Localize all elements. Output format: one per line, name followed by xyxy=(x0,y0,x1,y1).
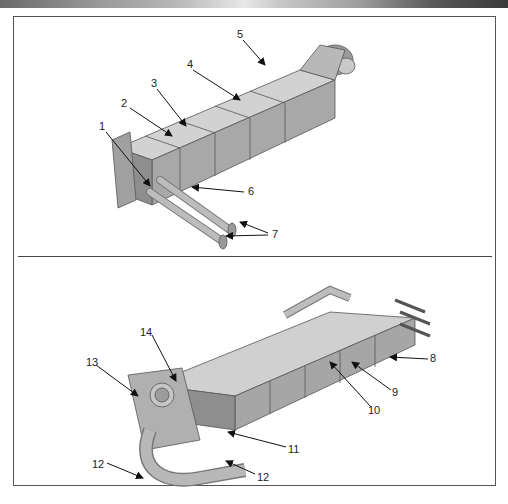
callout-3: 3 xyxy=(151,78,157,89)
callout-11: 11 xyxy=(288,444,299,455)
callout-10: 10 xyxy=(368,405,380,416)
callout-8: 8 xyxy=(430,353,436,364)
callout-6: 6 xyxy=(248,186,254,197)
top-assembly-illustration xyxy=(0,0,508,504)
callout-9: 9 xyxy=(392,387,398,398)
callout-13: 13 xyxy=(86,357,98,368)
callout-14: 14 xyxy=(140,327,152,338)
callout-7: 7 xyxy=(272,229,278,240)
top-cooler-body xyxy=(112,45,355,249)
callout-1: 1 xyxy=(99,121,105,132)
callout-12a: 12 xyxy=(92,459,104,470)
callout-5: 5 xyxy=(237,29,243,40)
bottom-cooler-body xyxy=(128,290,430,480)
callout-2: 2 xyxy=(121,98,127,109)
callout-12b: 12 xyxy=(257,472,269,483)
callout-4: 4 xyxy=(187,59,193,70)
